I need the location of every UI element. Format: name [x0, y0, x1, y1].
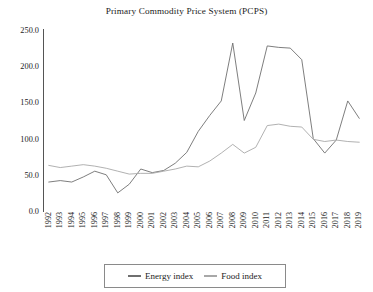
- series-lines: [43, 30, 365, 211]
- x-axis-tick-label: 2007: [217, 212, 225, 228]
- y-axis-tick-label: 150.0: [1, 98, 43, 107]
- x-axis-tick-label: 2018: [344, 212, 352, 228]
- legend-line-icon: [128, 275, 141, 277]
- x-axis-tick-label: 2017: [332, 212, 340, 228]
- x-axis-tick-label: 2012: [275, 212, 283, 228]
- x-axis-tick-label: 2005: [194, 212, 202, 228]
- plot-area: [43, 30, 365, 211]
- y-axis-tick-label: 50.0: [1, 170, 43, 179]
- x-axis-tick-label: 2000: [137, 212, 145, 228]
- x-axis-tick-label: 2014: [298, 212, 306, 228]
- x-axis-tick-label: 2010: [252, 212, 260, 228]
- y-axis-tick-label: 100.0: [1, 134, 43, 143]
- chart-title: Primary Commodity Price System (PCPS): [0, 6, 373, 16]
- x-axis-tick-label: 1995: [79, 212, 87, 228]
- x-axis-tick-label: 1992: [45, 212, 53, 228]
- x-axis-tick-label: 1994: [68, 212, 76, 228]
- y-axis-tick-label: 200.0: [1, 62, 43, 71]
- x-axis-tick-label: 2008: [229, 212, 237, 228]
- y-axis-tick-label: 0.0: [1, 207, 43, 216]
- legend-entry: Food index: [204, 272, 262, 281]
- x-axis-tick-label: 1998: [114, 212, 122, 228]
- x-axis-tick-label: 2013: [286, 212, 294, 228]
- series-line: [49, 43, 360, 193]
- x-axis-tick-label: 1999: [125, 212, 133, 228]
- x-axis-tick-label: 2002: [160, 212, 168, 228]
- x-axis-tick-labels: 1992199319941995199619971998199920002001…: [43, 212, 365, 264]
- x-axis-tick-label: 2006: [206, 212, 214, 228]
- chart-figure: Primary Commodity Price System (PCPS) 0.…: [0, 0, 373, 292]
- x-axis-tick-label: 2019: [355, 212, 363, 228]
- x-axis-tick-label: 2015: [309, 212, 317, 228]
- x-axis-tick-label: 1997: [102, 212, 110, 228]
- x-axis-tick-label: 2016: [321, 212, 329, 228]
- x-axis-tick-label: 2009: [240, 212, 248, 228]
- x-axis-tick-label: 2003: [171, 212, 179, 228]
- y-axis-tick-label: 250.0: [1, 26, 43, 35]
- x-axis-tick-label: 2001: [148, 212, 156, 228]
- x-axis-tick-label: 1993: [56, 212, 64, 228]
- x-axis-tick-label: 2004: [183, 212, 191, 228]
- legend-line-icon: [204, 275, 217, 277]
- legend-label: Food index: [221, 272, 262, 281]
- y-axis-tick-labels: 0.050.0100.0150.0200.0250.0: [0, 0, 43, 292]
- chart-legend: Energy indexFood index: [104, 264, 286, 288]
- legend-label: Energy index: [145, 272, 193, 281]
- x-axis-tick-label: 2011: [263, 212, 271, 228]
- legend-entry: Energy index: [128, 272, 193, 281]
- x-axis-tick-label: 1996: [91, 212, 99, 228]
